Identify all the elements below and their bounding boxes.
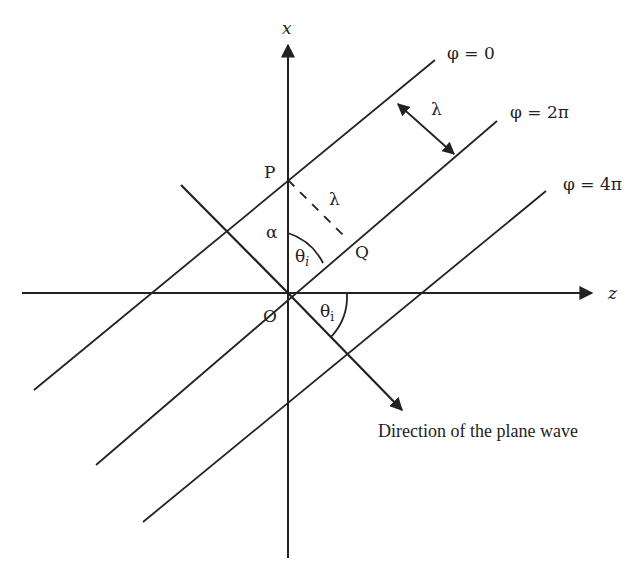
wavefront-phi-4pi xyxy=(143,191,546,522)
direction-caption: Direction of the plane wave xyxy=(378,421,578,441)
wavefront-label-phi-2pi: φ = 2π xyxy=(510,102,569,122)
wavefront-label-phi-0: φ = 0 xyxy=(447,43,495,63)
lambda-pq-label: λ xyxy=(329,189,340,209)
origin-label: O xyxy=(263,306,277,326)
lambda-between-fronts-label: λ xyxy=(431,99,442,119)
wavelength-double-arrow xyxy=(398,104,454,154)
alpha-label: α xyxy=(266,222,278,242)
point-q-label: Q xyxy=(355,242,369,262)
wavefront-label-phi-4pi: φ = 4π xyxy=(563,174,622,194)
z-axis-label: z xyxy=(607,283,618,303)
theta-lower-label: θi xyxy=(320,301,334,324)
plane-wave-diagram: x z O φ = 0 φ = 2π φ = 4π P Q α θi θi λ … xyxy=(0,0,640,581)
x-axis-label: x xyxy=(282,18,292,38)
theta-upper-label: θi xyxy=(295,246,309,269)
point-p-label: P xyxy=(264,162,275,182)
